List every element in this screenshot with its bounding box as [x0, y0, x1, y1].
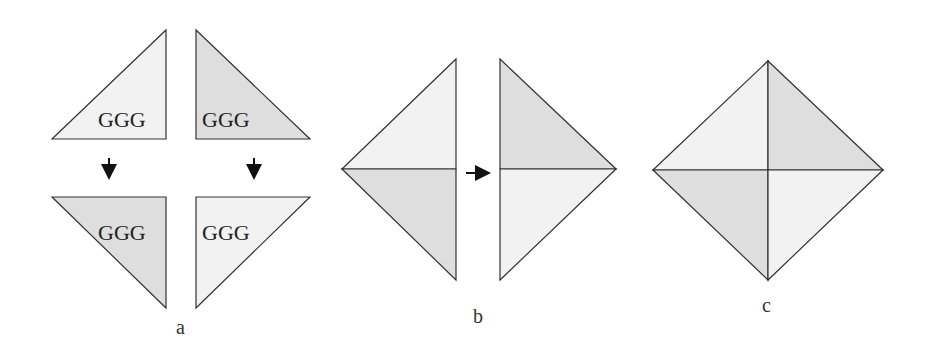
quadrant-bottom-right — [768, 170, 883, 280]
diagram-svg: GGG GGG GGG GGG a b c — [0, 0, 930, 351]
quadrant-top-left — [653, 61, 768, 170]
quadrant-top-right — [768, 61, 883, 170]
panel-c: c — [653, 61, 883, 316]
panel-a-label: a — [176, 316, 185, 338]
triangle-bottom-right — [196, 197, 310, 308]
triangle-bottom-left — [52, 197, 166, 308]
panel-b: b — [342, 59, 616, 327]
left-half-lower — [342, 169, 456, 280]
panel-c-label: c — [762, 294, 771, 316]
right-half-upper — [500, 59, 616, 169]
panel-b-label: b — [473, 305, 483, 327]
left-half-upper — [342, 59, 456, 169]
triangle-top-left-text: GGG — [98, 107, 146, 132]
diagram-canvas: GGG GGG GGG GGG a b c — [0, 0, 930, 351]
triangle-bottom-left-text: GGG — [98, 220, 146, 245]
panel-a: GGG GGG GGG GGG a — [52, 30, 310, 338]
triangle-top-right-text: GGG — [202, 107, 250, 132]
triangle-bottom-right-text: GGG — [202, 220, 250, 245]
quadrant-bottom-left — [653, 170, 768, 280]
right-half-lower — [500, 169, 616, 280]
